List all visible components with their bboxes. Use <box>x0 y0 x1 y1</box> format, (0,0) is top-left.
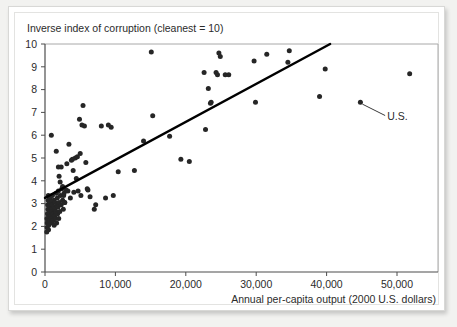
scatter-point <box>83 160 88 165</box>
scatter-point <box>150 113 155 118</box>
scatter-point <box>252 59 257 64</box>
scatter-point <box>58 179 63 184</box>
scatter-point <box>76 189 81 194</box>
scatter-point <box>66 142 71 147</box>
scatter-point <box>61 207 66 212</box>
scatter-point <box>178 157 183 162</box>
scatter-point <box>317 94 322 99</box>
y-tick-label: 5 <box>31 152 37 164</box>
scatter-point <box>92 207 97 212</box>
x-axis-title: Annual per-capita output (2000 U.S. doll… <box>231 293 436 305</box>
scatter-point <box>253 100 258 105</box>
scatter-point <box>54 149 59 154</box>
scatter-point <box>226 72 231 77</box>
scatter-point <box>209 100 214 105</box>
scatter-point <box>85 187 90 192</box>
scatter-point <box>78 151 83 156</box>
scatter-point <box>109 125 114 130</box>
us-annotation-label: U.S. <box>387 110 407 122</box>
screenshot-root: Inverse index of corruption (cleanest = … <box>0 0 457 327</box>
scatter-point <box>287 48 292 53</box>
x-tick-label: 0 <box>42 278 48 290</box>
scatter-point <box>57 174 62 179</box>
scatter-chart-figure: Inverse index of corruption (cleanest = … <box>0 0 457 327</box>
scatter-point <box>88 194 93 199</box>
scatter-point <box>54 220 59 225</box>
scatter-point <box>62 200 67 205</box>
scatter-point <box>407 71 412 76</box>
y-tick-label: 10 <box>25 38 37 50</box>
scatter-point <box>358 100 363 105</box>
y-tick-label: 7 <box>31 106 37 118</box>
y-tick-label: 6 <box>31 129 37 141</box>
scatter-point <box>82 124 87 129</box>
x-tick-label: 20,000 <box>170 278 202 290</box>
chart-canvas: Inverse index of corruption (cleanest = … <box>0 0 457 327</box>
scatter-point <box>132 168 137 173</box>
scatter-point <box>65 189 70 194</box>
scatter-point <box>78 193 83 198</box>
y-tick-label: 2 <box>31 220 37 232</box>
scatter-point <box>264 52 269 57</box>
chart-title: Inverse index of corruption (cleanest = … <box>27 22 223 34</box>
plot-frame <box>45 44 438 272</box>
x-tick-label: 30,000 <box>240 278 272 290</box>
scatter-point <box>46 227 51 232</box>
scatter-point <box>215 72 220 77</box>
scatter-point <box>203 127 208 132</box>
y-axis-ticks: 012345678910 <box>25 38 45 278</box>
scatter-point <box>81 103 86 108</box>
scatter-point <box>167 134 172 139</box>
x-tick-label: 50,000 <box>381 278 413 290</box>
scatter-point <box>218 54 223 59</box>
scatter-point <box>71 168 76 173</box>
us-annotation-leader-line <box>362 104 385 115</box>
x-tick-label: 40,000 <box>311 278 343 290</box>
scatter-point <box>49 133 54 138</box>
scatter-point <box>111 193 116 198</box>
scatter-point <box>68 195 73 200</box>
scatter-point <box>77 117 82 122</box>
scatter-point <box>149 49 154 54</box>
x-axis-ticks: 010,00020,00030,00040,00050,000 <box>42 272 413 290</box>
scatter-point <box>103 195 108 200</box>
y-tick-label: 0 <box>31 266 37 278</box>
y-tick-label: 3 <box>31 197 37 209</box>
scatter-point <box>99 124 104 129</box>
trend-line <box>45 44 330 198</box>
scatter-point <box>116 169 121 174</box>
y-tick-label: 1 <box>31 243 37 255</box>
scatter-point <box>323 67 328 72</box>
scatter-point <box>285 60 290 65</box>
scatter-point <box>206 86 211 91</box>
y-tick-label: 8 <box>31 83 37 95</box>
scatter-point <box>202 70 207 75</box>
y-tick-label: 4 <box>31 175 37 187</box>
scatter-point <box>59 165 64 170</box>
scatter-point <box>71 190 76 195</box>
scatter-point <box>61 193 66 198</box>
x-tick-label: 10,000 <box>99 278 131 290</box>
y-tick-label: 9 <box>31 61 37 73</box>
scatter-point <box>56 216 61 221</box>
scatter-point <box>64 161 69 166</box>
scatter-points <box>44 48 412 234</box>
scatter-point <box>187 159 192 164</box>
scatter-point <box>93 202 98 207</box>
